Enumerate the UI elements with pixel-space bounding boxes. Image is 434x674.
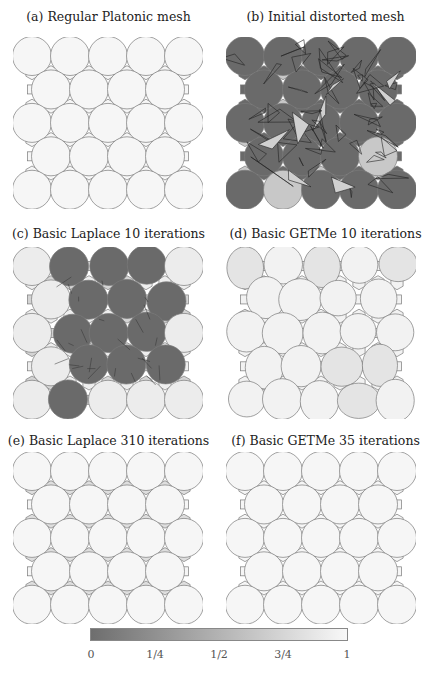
caption-e: (e) Basic Laplace 310 iterations: [0, 433, 217, 448]
caption-c: (c) Basic Laplace 10 iterations: [0, 226, 217, 241]
mesh-panel-b: [226, 37, 416, 209]
colorbar-tick-4: 1: [344, 648, 351, 661]
mesh-panel-e: [13, 452, 203, 624]
mesh-panel-a: [13, 37, 203, 209]
mesh-panel-c: [13, 247, 203, 419]
colorbar-tick-2: 1/2: [210, 648, 228, 661]
quality-colorbar: [90, 628, 348, 641]
colorbar-tick-3: 3/4: [274, 648, 292, 661]
colorbar-tick-1: 1/4: [146, 648, 164, 661]
colorbar-tick-0: 0: [88, 648, 95, 661]
caption-d: (d) Basic GETMe 10 iterations: [217, 226, 434, 241]
caption-a: (a) Regular Platonic mesh: [0, 9, 217, 24]
mesh-panel-d: [226, 247, 416, 419]
mesh-panel-f: [226, 452, 416, 624]
caption-f: (f) Basic GETMe 35 iterations: [217, 433, 434, 448]
caption-b: (b) Initial distorted mesh: [217, 9, 434, 24]
